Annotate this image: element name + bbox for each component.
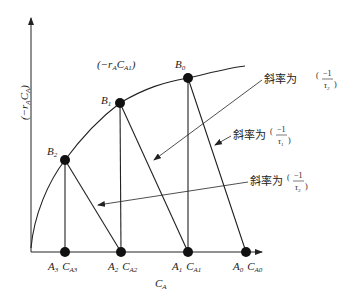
slope-line-tau2 (120, 103, 188, 252)
svg-text:−1: −1 (323, 69, 332, 78)
slope-label-tau3: 斜率为 ( −1 τ3 ) (250, 171, 308, 193)
point-B0 (183, 73, 193, 83)
point-CA3 (60, 247, 70, 257)
svg-text:(: ( (270, 127, 273, 136)
label-A0-CA0: A0CA0 (232, 260, 263, 274)
svg-text:τ2: τ2 (324, 81, 330, 91)
label-B0: B0 (175, 58, 186, 72)
slope-label-tau1: 斜率为 ( −1 τ1 ) (233, 125, 291, 147)
svg-text:): ) (305, 182, 308, 191)
curve-label: (−rACA1) (97, 58, 136, 72)
point-CA1 (183, 247, 193, 257)
svg-text:斜率为: 斜率为 (250, 174, 283, 188)
label-A1-CA1: A1CA1 (171, 260, 201, 274)
svg-text:): ) (334, 80, 337, 89)
label-B2: B2 (47, 145, 58, 159)
slope-label-tau2: 斜率为 ( −1 τ2 ) (264, 69, 337, 91)
arrow-tau1 (215, 136, 231, 145)
svg-text:(: ( (316, 71, 319, 80)
svg-text:): ) (288, 136, 291, 145)
svg-text:τ1: τ1 (278, 137, 283, 147)
label-A2-CA2: A2CA2 (107, 260, 138, 274)
svg-text:−1: −1 (277, 125, 286, 134)
label-A3-CA3: A3CA3 (47, 260, 78, 274)
svg-text:τ3: τ3 (295, 183, 301, 193)
point-CA0 (241, 247, 251, 257)
point-B2 (60, 155, 70, 165)
svg-text:(−rACA): (−rACA) (18, 85, 32, 120)
svg-text:斜率为: 斜率为 (264, 72, 297, 86)
point-CA2 (116, 247, 126, 257)
vertical-B1-CA2 (120, 103, 121, 252)
svg-text:(: ( (287, 173, 290, 182)
svg-text:−1: −1 (294, 171, 303, 180)
x-axis-label: CA (155, 277, 167, 291)
label-B1: B1 (101, 94, 111, 108)
slope-line-tau3 (65, 160, 121, 252)
point-B1 (115, 98, 125, 108)
arrow-tau2 (154, 80, 262, 160)
slope-line-tau1 (188, 78, 246, 252)
svg-text:斜率为: 斜率为 (233, 128, 266, 142)
y-axis-label: (−rACA) (18, 85, 32, 120)
cstr-series-diagram: (−rACA) (−rACA1) B0 B1 B2 A3CA3 A2CA2 A1… (0, 0, 345, 300)
